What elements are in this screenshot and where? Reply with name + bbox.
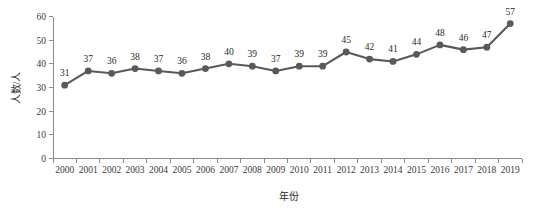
- x-axis-tick-label: 2000: [55, 165, 74, 175]
- y-axis-tick-label: 50: [37, 36, 47, 46]
- x-axis-tick-label: 2004: [149, 165, 168, 175]
- x-axis-tick-label: 2011: [313, 165, 332, 175]
- data-point-label: 57: [506, 7, 516, 17]
- data-point-marker: [437, 42, 444, 49]
- x-axis-tick-label: 2015: [407, 165, 426, 175]
- data-point-marker: [202, 65, 209, 72]
- x-axis-tick-label: 2003: [126, 165, 145, 175]
- x-axis-tick-label: 2002: [102, 165, 121, 175]
- series-group: [61, 20, 513, 88]
- line-chart: 0102030405060 20002001200220032004200520…: [0, 0, 537, 208]
- y-axis-title: 人数/人: [10, 72, 22, 105]
- data-point-marker: [460, 46, 467, 53]
- y-axis-tick-label: 10: [37, 130, 47, 140]
- data-point-label: 37: [154, 54, 164, 64]
- x-axis-tick-label: 2008: [243, 165, 262, 175]
- data-point-label: 36: [107, 56, 117, 66]
- data-point-label: 46: [459, 33, 469, 43]
- data-point-label: 36: [177, 56, 187, 66]
- data-point-marker: [155, 68, 162, 75]
- x-axis-tick-label: 2014: [384, 165, 403, 175]
- data-point-label: 42: [365, 42, 375, 52]
- x-axis-tick-label: 2017: [454, 165, 473, 175]
- x-axis-tick-label: 2013: [360, 165, 379, 175]
- data-point-marker: [225, 60, 232, 67]
- x-axis-tick-label: 2018: [477, 165, 496, 175]
- data-point-marker: [507, 20, 514, 27]
- x-axis-group: 2000200120022003200420052006200720082009…: [53, 159, 522, 176]
- data-point-label: 37: [83, 54, 93, 64]
- data-point-label: 39: [294, 49, 304, 59]
- data-point-marker: [132, 65, 139, 72]
- x-axis-tick-label: 2006: [196, 165, 215, 175]
- y-axis-tick-label: 30: [37, 83, 47, 93]
- data-point-label: 39: [248, 49, 258, 59]
- y-axis-group: 0102030405060: [37, 12, 54, 164]
- x-axis-tick-label: 2016: [430, 165, 449, 175]
- data-point-label: 38: [130, 52, 140, 62]
- y-axis-tick-label: 0: [41, 154, 46, 164]
- point-labels-group: 3137363837363840393739394542414448464757: [60, 7, 515, 79]
- chart-canvas: 0102030405060 20002001200220032004200520…: [0, 0, 537, 208]
- y-axis-tick-label: 40: [37, 59, 47, 69]
- data-point-marker: [179, 70, 186, 77]
- data-point-marker: [296, 63, 303, 70]
- x-axis-tick-label: 2019: [501, 165, 520, 175]
- x-axis-tick-label: 2001: [79, 165, 98, 175]
- data-point-label: 31: [60, 68, 70, 78]
- x-axis-tick-label: 2012: [337, 165, 356, 175]
- data-point-marker: [483, 44, 490, 51]
- data-point-label: 38: [201, 52, 211, 62]
- x-axis-tick-label: 2007: [219, 165, 238, 175]
- data-point-marker: [366, 56, 373, 63]
- data-point-marker: [249, 63, 256, 70]
- data-point-marker: [390, 58, 397, 65]
- data-point-label: 45: [341, 35, 351, 45]
- x-axis-title: 年份: [279, 190, 299, 202]
- y-axis-tick-label: 60: [37, 12, 47, 22]
- data-point-label: 44: [412, 37, 422, 47]
- data-point-marker: [319, 63, 326, 70]
- data-point-label: 37: [271, 54, 281, 64]
- data-point-label: 48: [435, 28, 445, 38]
- x-axis-tick-label: 2005: [172, 165, 191, 175]
- data-point-marker: [413, 51, 420, 58]
- data-point-marker: [343, 49, 350, 56]
- data-point-label: 47: [482, 30, 492, 40]
- data-point-marker: [108, 70, 115, 77]
- y-axis-tick-label: 20: [37, 107, 47, 117]
- x-axis-tick-label: 2009: [266, 165, 285, 175]
- x-axis-tick-label: 2010: [290, 165, 309, 175]
- data-point-marker: [85, 68, 92, 75]
- data-point-marker: [272, 68, 279, 75]
- data-point-label: 41: [388, 44, 398, 54]
- data-point-label: 39: [318, 49, 328, 59]
- data-point-label: 40: [224, 47, 234, 57]
- data-point-marker: [61, 82, 68, 89]
